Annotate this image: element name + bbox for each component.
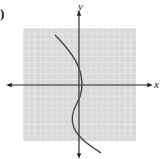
graph: [0, 0, 165, 159]
x-axis-label: x: [154, 78, 159, 90]
y-axis-label: y: [78, 0, 83, 12]
